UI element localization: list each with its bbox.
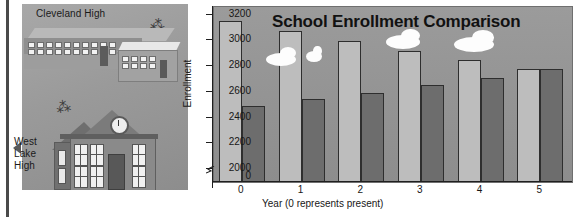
building-door [108,154,125,190]
x-axis-tick-label: 5 [527,184,551,195]
window [132,144,146,166]
y-axis-label: Enrollment [182,49,193,119]
clock-icon [110,116,129,135]
building-door [100,46,108,66]
school-illustration: ⁂ ⁂ [22,4,188,190]
x-axis-label: Year (0 represents present) [262,198,383,209]
window-row [122,56,156,62]
west-lake-high-label: West Lake High [14,136,44,172]
y-axis-tick-label: 2600 [211,85,251,96]
window [90,144,104,166]
cloud-icon [472,30,494,44]
chart-title: School Enrollment Comparison [272,12,520,32]
y-axis-tick-label: 3200 [211,8,251,19]
y-axis-tick-label: 3000 [211,33,251,44]
window [58,168,66,184]
bar-west-lake-high-year-3 [421,85,444,182]
wing-door [160,60,167,78]
y-axis-tick-label: 2800 [211,59,251,70]
cleveland-high-label: Cleveland High [36,8,105,20]
bar-west-lake-high-year-4 [481,78,504,182]
window [74,144,88,166]
bar-cleveland-high-year-2 [338,41,361,182]
x-axis-tick-label: 0 [229,184,253,195]
x-axis-tick-label: 4 [468,184,492,195]
x-axis-tick-label: 1 [289,184,313,195]
window [90,166,104,188]
bar-west-lake-high-year-5 [540,69,563,182]
enrollment-chart: Enrollment School Enrollment Comparison … [176,0,587,217]
bar-west-lake-high-year-2 [361,93,384,182]
bar-cleveland-high-year-3 [398,51,421,182]
y-axis-tick-label: 2400 [211,111,251,122]
bar-west-lake-high-year-1 [302,99,325,182]
window [58,150,66,166]
bar-cleveland-high-year-0 [219,21,242,182]
west-lake-high-building [52,108,162,190]
axis-break-icon [206,166,215,175]
y-axis-tick-label: 2200 [211,136,251,147]
bar-cleveland-high-year-5 [517,69,540,182]
x-axis-tick-label: 2 [348,184,372,195]
plot-area: School Enrollment Comparison [213,6,573,183]
page-edge-rule [6,0,9,217]
x-axis-tick-label: 3 [408,184,432,195]
window [132,166,146,188]
y-axis-zero-label: 0 [211,170,251,181]
screenshot-root: ⁂ ⁂ [0,0,587,217]
window [74,166,88,188]
window-row [122,63,156,69]
x-axis-line [212,181,572,182]
bar-cleveland-high-year-4 [458,60,481,182]
